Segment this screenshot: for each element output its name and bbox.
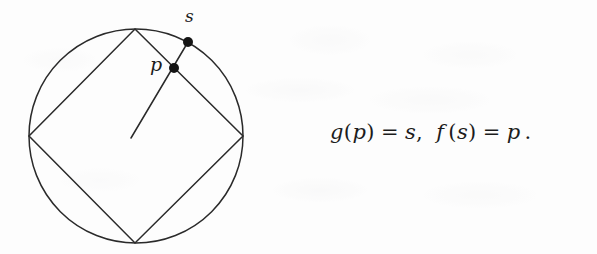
point-s-label: s <box>185 8 194 25</box>
equation-right-result: p <box>507 120 521 144</box>
figure-page: p s g(p)=s,f(s)=p. <box>0 0 597 254</box>
equation-left-equals: = <box>379 120 401 144</box>
equation-left-argument: p <box>352 120 366 144</box>
equation-left-function: g <box>330 120 344 144</box>
equation-right-open-paren: ( <box>448 120 457 144</box>
point-s-dot <box>183 37 193 47</box>
inscribed-square <box>29 29 243 243</box>
equation-right-equals: = <box>481 120 503 144</box>
equation-right-argument: s <box>457 120 468 144</box>
equation-left-comma: , <box>416 120 423 144</box>
equation-right-function: f <box>436 120 444 144</box>
point-p-dot <box>169 63 179 73</box>
equation-right-period: . <box>525 120 532 144</box>
equation: g(p)=s,f(s)=p. <box>330 120 532 144</box>
circle-outline <box>29 29 243 243</box>
point-p-label: p <box>150 55 162 74</box>
equation-left-result: s <box>405 120 416 144</box>
equation-left-close-paren: ) <box>366 120 375 144</box>
equation-right-close-paren: ) <box>468 120 477 144</box>
